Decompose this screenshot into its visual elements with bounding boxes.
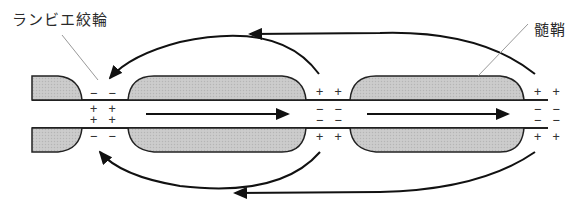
charge-node3-inner-bottom: − − <box>534 114 562 126</box>
charge-node2-outer-bottom: + + <box>316 131 344 143</box>
saltatory-conduction-diagram <box>0 0 573 205</box>
myelin-segment-left <box>32 76 82 152</box>
charge-node2-outer-top: + + <box>316 86 344 98</box>
charge-node1-outer-top: − − <box>90 87 118 99</box>
external-current-arc-top-long <box>250 33 535 74</box>
myelin-sheath-label: 髄鞘 <box>534 18 566 39</box>
charge-node1-outer-bottom: − − <box>90 130 118 142</box>
charge-node3-outer-top: + + <box>534 86 562 98</box>
external-current-arc-top-short <box>110 36 319 78</box>
charge-node1-inner-bottom: + + <box>90 114 118 126</box>
external-current-arc-bottom-long <box>235 152 535 193</box>
node-of-ranvier-label: ランビエ絞輪 <box>12 8 108 29</box>
charge-node2-inner-bottom: − − <box>316 114 344 126</box>
charge-node3-outer-bottom: + + <box>534 131 562 143</box>
leader-line-myelin-sheath <box>478 24 528 76</box>
external-current-arc-bottom-short <box>100 152 320 188</box>
leader-line-node-of-ranvier <box>62 35 98 80</box>
